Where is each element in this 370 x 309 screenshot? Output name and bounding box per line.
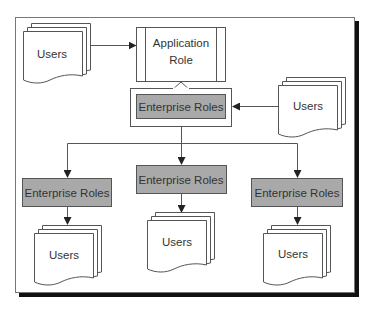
users-bottom-middle-label: Users — [162, 236, 192, 248]
users-bottom-middle: Users — [148, 213, 215, 273]
users-top-left: Users — [24, 24, 91, 84]
users-bottom-left: Users — [35, 226, 102, 286]
central-enterprise-role: Enterprise Roles — [131, 89, 232, 127]
child-enterprise-role-middle: Enterprise Roles — [137, 166, 227, 194]
users-bottom-right: Users — [264, 226, 331, 286]
users-right: Users — [279, 78, 346, 138]
diagram-canvas: Application Role Enterprise Roles Users … — [0, 0, 370, 309]
child-enterprise-role-left: Enterprise Roles — [23, 179, 112, 207]
users-top-left-label: Users — [37, 48, 67, 60]
child-enterprise-role-middle-label: Enterprise Roles — [138, 174, 223, 186]
users-bottom-right-label: Users — [278, 248, 308, 260]
central-enterprise-role-label: Enterprise Roles — [138, 101, 223, 113]
child-enterprise-role-right-label: Enterprise Roles — [254, 187, 339, 199]
application-role-box: Application Role — [137, 28, 226, 82]
application-role-label-line1: Application — [153, 37, 209, 49]
users-bottom-left-label: Users — [49, 249, 79, 261]
child-enterprise-role-right: Enterprise Roles — [252, 179, 343, 207]
users-right-label: Users — [293, 100, 323, 112]
application-role-label-line2: Role — [169, 54, 193, 66]
child-enterprise-role-left-label: Enterprise Roles — [24, 187, 109, 199]
